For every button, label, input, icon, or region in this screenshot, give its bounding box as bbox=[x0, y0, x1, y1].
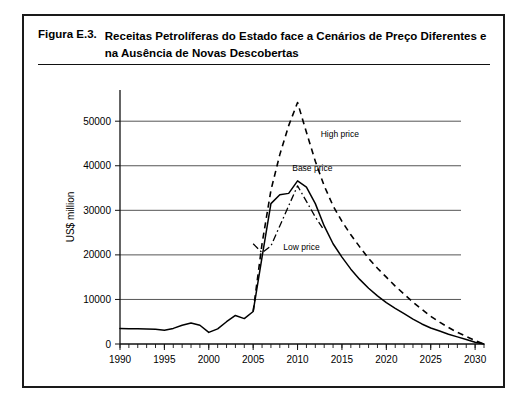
x-tick-label: 2025 bbox=[420, 354, 443, 365]
series-base-price bbox=[120, 181, 484, 344]
x-tick-label: 2010 bbox=[286, 354, 309, 365]
y-tick-label: 30000 bbox=[83, 205, 111, 216]
tick-group bbox=[115, 121, 475, 350]
x-tick-label: 2000 bbox=[198, 354, 221, 365]
x-tick-label: 2030 bbox=[464, 354, 487, 365]
gridline-group bbox=[120, 121, 461, 299]
y-tick-label: 20000 bbox=[83, 249, 111, 260]
series-high-price bbox=[253, 102, 484, 344]
x-tick-label: 2015 bbox=[331, 354, 354, 365]
y-axis-title: US$ million bbox=[65, 192, 76, 243]
x-tick-label: 2005 bbox=[242, 354, 265, 365]
annotation-base-price: Base price bbox=[292, 163, 332, 173]
annotation-high-price: High price bbox=[321, 129, 360, 139]
figure-caption: Figura E.3. Receitas Petrolíferas do Est… bbox=[38, 28, 488, 61]
y-tick-label: 50000 bbox=[83, 116, 111, 127]
y-tick-label: 0 bbox=[105, 339, 111, 350]
title-divider bbox=[38, 64, 490, 65]
x-tick-label: 1990 bbox=[109, 354, 132, 365]
y-tick-label-group: 01000020000300004000050000 bbox=[83, 116, 111, 350]
figure-number: Figura E.3. bbox=[38, 28, 97, 40]
figure-title: Receitas Petrolíferas do Estado face a C… bbox=[105, 28, 488, 61]
y-tick-label: 10000 bbox=[83, 294, 111, 305]
y-tick-label: 40000 bbox=[83, 160, 111, 171]
x-tick-label-group: 199019952000200520102015202020252030 bbox=[109, 354, 487, 365]
x-tick-label: 2020 bbox=[375, 354, 398, 365]
x-tick-label: 1995 bbox=[153, 354, 176, 365]
chart-plot-area: 01000020000300004000050000 1990199520002… bbox=[24, 72, 503, 386]
annotation-low-price: Low price bbox=[283, 242, 320, 252]
revenue-line-chart: 01000020000300004000050000 1990199520002… bbox=[24, 72, 503, 386]
figure-frame: Figura E.3. Receitas Petrolíferas do Est… bbox=[22, 14, 505, 388]
